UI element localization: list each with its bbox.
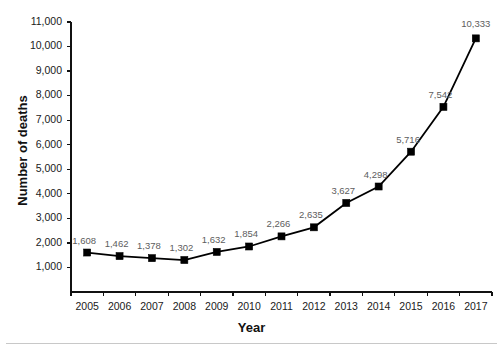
y-tick-label: 10,000 bbox=[30, 39, 62, 51]
y-tick-label: 7,000 bbox=[36, 113, 62, 125]
data-point-marker bbox=[343, 199, 350, 206]
data-point-label: 3,627 bbox=[331, 185, 355, 196]
y-tick-label: 8,000 bbox=[36, 88, 62, 100]
y-tick-label: 9,000 bbox=[36, 64, 62, 76]
x-tick-label-group: 2005200620072008200920102011201220132014… bbox=[76, 300, 488, 312]
data-point-label: 1,302 bbox=[169, 242, 193, 253]
data-point-marker bbox=[472, 35, 479, 42]
x-tick-label: 2014 bbox=[367, 300, 391, 312]
x-tick-label: 2006 bbox=[108, 300, 132, 312]
data-point-label: 1,632 bbox=[202, 234, 226, 245]
y-tick-label-group: 1,0002,0003,0004,0005,0006,0007,0008,000… bbox=[30, 15, 62, 272]
x-tick-label: 2007 bbox=[140, 300, 164, 312]
x-tick-label: 2011 bbox=[270, 300, 293, 312]
data-point-label: 10,333 bbox=[461, 18, 490, 29]
x-axis-title: Year bbox=[0, 320, 503, 335]
x-tick-label: 2016 bbox=[432, 300, 456, 312]
x-tick-label: 2017 bbox=[464, 300, 488, 312]
x-tick-label: 2008 bbox=[173, 300, 197, 312]
data-point-marker bbox=[440, 103, 447, 110]
data-point-marker bbox=[84, 249, 91, 256]
x-tick-label: 2012 bbox=[302, 300, 326, 312]
y-tick-label: 11,000 bbox=[31, 15, 62, 27]
line-chart-plot: 1,0002,0003,0004,0005,0006,0007,0008,000… bbox=[0, 0, 503, 356]
y-tick-label: 6,000 bbox=[36, 138, 62, 150]
data-point-label: 1,854 bbox=[234, 228, 258, 239]
data-point-marker bbox=[246, 243, 253, 250]
data-point-label: 4,298 bbox=[364, 169, 388, 180]
data-point-marker bbox=[278, 233, 285, 240]
y-tick-label: 1,000 bbox=[36, 260, 62, 272]
data-point-label: 7,542 bbox=[429, 89, 453, 100]
y-tick-label: 3,000 bbox=[36, 211, 62, 223]
chart-figure: Number of deaths 1,0002,0003,0004,0005,0… bbox=[0, 0, 503, 356]
x-tick-label: 2005 bbox=[76, 300, 100, 312]
data-point-marker bbox=[181, 257, 188, 264]
y-tick-label: 4,000 bbox=[36, 187, 62, 199]
x-tick-label: 2009 bbox=[205, 300, 229, 312]
data-point-marker bbox=[148, 255, 155, 262]
data-point-marker bbox=[116, 253, 123, 260]
x-tick-label: 2013 bbox=[335, 300, 359, 312]
x-tick-label: 2010 bbox=[237, 300, 261, 312]
data-point-label: 1,608 bbox=[72, 235, 96, 246]
data-point-marker bbox=[310, 224, 317, 231]
footer-divider bbox=[6, 343, 497, 344]
data-point-label: 2,635 bbox=[299, 209, 323, 220]
data-point-label: 2,266 bbox=[267, 218, 291, 229]
data-label-group: 1,6081,4621,3781,3021,6321,8542,2662,635… bbox=[72, 18, 490, 253]
y-tick-label: 2,000 bbox=[36, 236, 62, 248]
y-tick-label: 5,000 bbox=[36, 162, 62, 174]
data-point-label: 5,716 bbox=[396, 134, 420, 145]
data-point-marker bbox=[408, 148, 415, 155]
data-point-label: 1,378 bbox=[137, 240, 161, 251]
data-point-label: 1,462 bbox=[105, 238, 129, 249]
data-point-marker bbox=[213, 248, 220, 255]
data-point-marker bbox=[375, 183, 382, 190]
x-tick-label: 2015 bbox=[399, 300, 423, 312]
